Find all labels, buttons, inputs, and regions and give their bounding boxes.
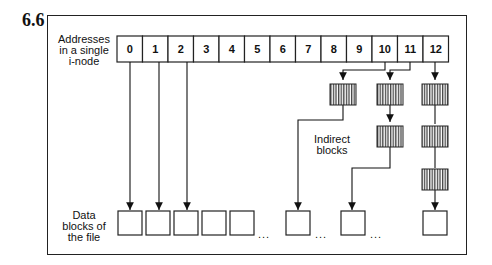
inode-address-label: 12: [430, 43, 442, 55]
inode-address-label: 2: [178, 43, 184, 55]
inode-address-row: 0123456789101112: [117, 36, 449, 62]
inode-address-label: 8: [331, 43, 337, 55]
inode-address-label: 5: [254, 43, 260, 55]
inode-address-label: 7: [305, 43, 311, 55]
inode-address-label: 10: [379, 43, 391, 55]
inode-address-label: 9: [356, 43, 362, 55]
indirect-blocks: [330, 84, 448, 190]
inode-address-label: 6: [280, 43, 286, 55]
inode-address-label: 3: [203, 43, 209, 55]
data-blocks: [118, 211, 447, 235]
inode-address-label: 1: [152, 43, 158, 55]
inode-address-label: 4: [229, 43, 236, 55]
inode-address-label: 0: [127, 43, 133, 55]
diagram-graphics: 0123456789101112: [0, 0, 492, 265]
inode-address-label: 11: [404, 43, 416, 55]
